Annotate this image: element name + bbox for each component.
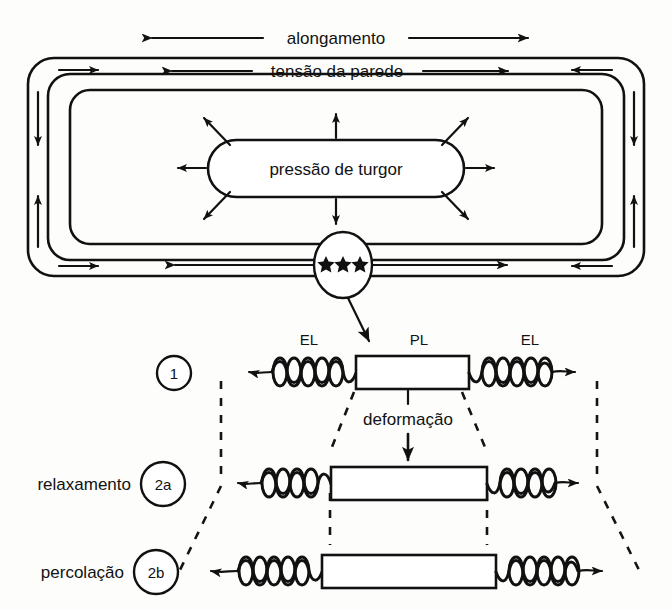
- row2a-plastic-block: [331, 467, 487, 500]
- row-2b: percolação 2b: [41, 550, 602, 594]
- row1-center-block-label: PL: [410, 331, 428, 348]
- stretch-label: alongamento: [287, 29, 385, 48]
- row2a-left-spring: [261, 469, 331, 497]
- turgor-arrow-down-left: [204, 192, 230, 219]
- row2b-left-spring: [238, 557, 322, 585]
- row-marker-label-1: 1: [170, 365, 178, 382]
- wall-tension-label: tensão da parede: [271, 62, 403, 81]
- guide-outer-right-lower: [597, 486, 641, 574]
- row1-right-spring-label: EL: [521, 331, 539, 348]
- guide-inner-right-upper: [462, 392, 487, 452]
- row1-left-arrow: [249, 372, 272, 373]
- cell-wall-extension-diagram: alongamento tensão da parede: [0, 0, 672, 610]
- row-2a: relaxamento 2a: [37, 462, 578, 506]
- guide-outer-left-lower: [178, 486, 221, 574]
- row1-right-spring: [469, 358, 552, 386]
- row2a-right-arrow: [555, 482, 578, 483]
- row1-left-spring: [272, 358, 356, 386]
- row-marker-label-2a: 2a: [155, 476, 172, 493]
- figure-root: alongamento tensão da parede: [0, 0, 672, 610]
- row-marker-label-2b: 2b: [148, 564, 165, 581]
- row2a-right-spring: [487, 469, 556, 497]
- row1-right-arrow: [552, 371, 575, 372]
- turgor-arrow-up-left: [204, 118, 230, 145]
- row2b-right-spring: [496, 557, 579, 585]
- row2b-left-arrow: [211, 571, 238, 572]
- row1-left-spring-label: EL: [300, 331, 318, 348]
- deformation-label: deformação: [363, 410, 453, 429]
- turgor-arrow-up-right: [442, 118, 468, 145]
- row2b-side-label: percolação: [41, 563, 124, 582]
- guide-inner-left-upper: [330, 392, 354, 452]
- turgor-arrow-down-right: [442, 192, 468, 219]
- row1-plastic-block: [356, 356, 469, 389]
- turgor-pressure-label: pressão de turgor: [269, 160, 403, 179]
- row2b-plastic-block: [322, 555, 496, 588]
- row2a-side-label: relaxamento: [37, 475, 131, 494]
- row2b-right-arrow: [578, 570, 602, 571]
- row2a-left-arrow: [238, 483, 261, 484]
- star-to-detail-arrow: [348, 298, 369, 341]
